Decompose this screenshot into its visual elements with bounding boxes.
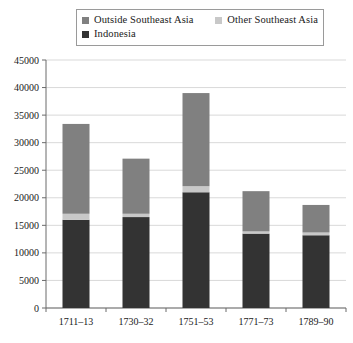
y-axis-tick-label: 40000 <box>14 82 39 93</box>
x-axis-tick-label: 1730–32 <box>119 316 154 327</box>
bar-segment-other-southeast-asia <box>303 232 330 235</box>
y-axis-tick-label: 30000 <box>14 137 39 148</box>
bar-segment-other-southeast-asia <box>183 186 210 192</box>
bar-segment-other-southeast-asia <box>123 214 150 217</box>
y-axis-tick-label: 15000 <box>14 220 39 231</box>
y-axis-tick-label: 0 <box>34 303 39 314</box>
bar-segment-outside-southeast-asia <box>303 205 330 233</box>
bar-group <box>183 93 210 308</box>
bar-group <box>303 205 330 308</box>
chart-canvas: 0500010000150002000025000300003500040000… <box>0 0 353 343</box>
bar-segment-indonesia <box>123 217 150 308</box>
bar-group <box>123 159 150 308</box>
bar-segment-outside-southeast-asia <box>183 93 210 186</box>
x-axis-tick-label: 1751–53 <box>179 316 214 327</box>
bar-segment-other-southeast-asia <box>63 214 90 220</box>
stacked-bar-chart: 0500010000150002000025000300003500040000… <box>0 0 353 343</box>
bar-group <box>243 191 270 308</box>
y-axis-tick-label: 20000 <box>14 192 39 203</box>
bar-segment-indonesia <box>63 220 90 308</box>
bar-segment-indonesia <box>183 192 210 308</box>
y-axis-tick-label: 25000 <box>14 165 39 176</box>
bar-segment-outside-southeast-asia <box>243 191 270 231</box>
x-axis-tick-label: 1711–13 <box>59 316 94 327</box>
bar-segment-indonesia <box>303 235 330 308</box>
y-axis-tick-label: 10000 <box>14 247 39 258</box>
bar-segment-indonesia <box>243 234 270 308</box>
y-axis-tick-label: 45000 <box>14 55 39 66</box>
y-axis-tick-label: 5000 <box>19 275 39 286</box>
bar-segment-outside-southeast-asia <box>123 159 150 214</box>
x-axis-tick-label: 1771–73 <box>239 316 274 327</box>
y-axis-tick-label: 35000 <box>14 110 39 121</box>
bar-group <box>63 124 90 308</box>
x-axis-tick-label: 1789–90 <box>299 316 334 327</box>
bar-segment-outside-southeast-asia <box>63 124 90 214</box>
bar-segment-other-southeast-asia <box>243 231 270 233</box>
